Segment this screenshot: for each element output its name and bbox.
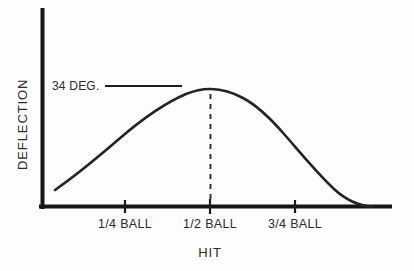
x-tick-label-quarter-ball: 1/4 BALL [98, 217, 152, 231]
x-tick-label-three-quarter-ball: 3/4 BALL [268, 217, 322, 231]
chart-figure: 34 DEG. DEFLECTION 1/4 BALL 1/2 BALL 3/4… [0, 0, 414, 271]
y-axis-title: DEFLECTION [15, 79, 30, 170]
peak-value-annotation: 34 DEG. [52, 79, 99, 93]
x-axis-title: HIT [198, 245, 222, 260]
x-tick-label-half-ball: 1/2 BALL [183, 217, 237, 231]
deflection-vs-hit-chart: 34 DEG. DEFLECTION 1/4 BALL 1/2 BALL 3/4… [0, 0, 414, 271]
